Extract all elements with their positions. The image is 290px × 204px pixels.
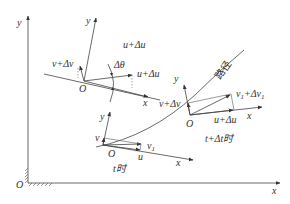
frame-bottom: O y x v u v1 t时 (95, 111, 193, 174)
b-time-label: t时 (113, 163, 128, 174)
r-u-label: u+Δu (214, 114, 237, 125)
tl-v-vector (80, 66, 84, 81)
tl-angle-arc (108, 64, 114, 102)
r-v1-vector (190, 95, 230, 115)
r-v1-label: v1+Δv1 (236, 88, 265, 101)
b-origin-label: O (108, 148, 115, 159)
kinematics-diagram: O y x O y x v+Δv u+Δu u+Δu Δθ 路径 (0, 0, 290, 204)
b-v-label: v (95, 132, 100, 143)
tl-u-vector (84, 75, 132, 81)
global-x-label: x (271, 185, 277, 196)
b-v-vector (103, 138, 104, 145)
global-origin-label: O (16, 179, 23, 190)
r-y-label: y (173, 73, 179, 84)
b-u-label: u (138, 151, 143, 162)
r-v-label: v+Δv (159, 98, 181, 109)
tl-y-axis (84, 18, 96, 81)
frame-right: O y x v+Δv u+Δu v1+Δv1 t+Δt时 (159, 73, 265, 144)
global-y-label: y (16, 17, 22, 28)
frame-top-left: O y x v+Δv u+Δu u+Δu Δθ (44, 15, 160, 108)
tl-origin-label: O (79, 83, 86, 94)
tl-y-label: y (85, 15, 91, 26)
b-y-label: y (99, 111, 105, 122)
tl-u-right-label: u+Δu (137, 68, 160, 79)
r-v-vector (188, 103, 190, 115)
path-label: 路径 (212, 58, 233, 81)
tl-v-label: v+Δv (52, 58, 74, 69)
b-x-label: x (175, 157, 181, 168)
tl-x-label: x (142, 97, 148, 108)
r-origin-label: O (186, 118, 193, 129)
tl-angle-label: Δθ (113, 59, 125, 70)
global-axes: O y x (16, 16, 280, 196)
b-v1-label: v1 (147, 140, 155, 153)
r-x-label: x (246, 110, 252, 121)
r-time-label: t+Δt时 (205, 133, 235, 144)
tl-u-top-label: u+Δu (123, 39, 146, 50)
